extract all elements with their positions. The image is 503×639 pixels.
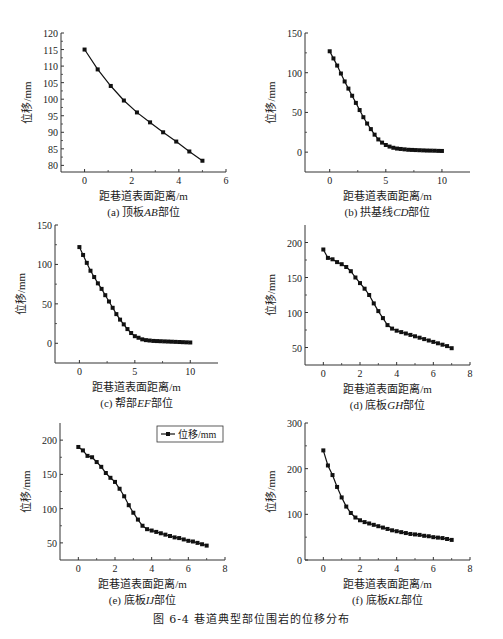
data-point-marker xyxy=(436,536,440,540)
subplot-c: 0501001500510位移/mm距巷道表面距离/m(c) 帮部EF部位 xyxy=(14,220,218,410)
y-axis-label: 位移/mm xyxy=(20,81,33,124)
x-tick-label: 6 xyxy=(186,563,191,574)
data-point-marker xyxy=(339,72,343,76)
data-point-marker xyxy=(166,340,170,344)
y-axis-label: 位移/mm xyxy=(264,273,277,316)
y-tick-label: 200 xyxy=(287,464,302,475)
x-tick-label: 2 xyxy=(358,563,363,574)
data-point-marker xyxy=(358,281,362,285)
data-point-marker xyxy=(445,344,449,348)
data-point-marker xyxy=(177,340,181,344)
data-point-marker xyxy=(118,487,122,491)
data-point-marker xyxy=(340,495,344,499)
data-point-marker xyxy=(391,146,395,150)
data-point-marker xyxy=(170,340,174,344)
data-point-marker xyxy=(344,265,348,269)
y-tick-label: 150 xyxy=(42,469,57,480)
subplot-caption: (a) 顶板AB部位 xyxy=(107,205,179,219)
data-point-marker xyxy=(335,485,339,489)
x-axis-label: 距巷道表面距离/m xyxy=(343,577,432,590)
x-tick-label: 6 xyxy=(224,175,229,186)
data-point-marker xyxy=(350,94,354,98)
x-tick-label: 4 xyxy=(176,175,181,186)
data-point-marker xyxy=(144,338,148,342)
data-point-marker xyxy=(85,261,89,265)
series-line xyxy=(323,450,451,540)
data-point-marker xyxy=(321,248,325,252)
data-point-marker xyxy=(363,520,367,524)
data-point-marker xyxy=(109,84,113,88)
data-point-marker xyxy=(344,505,348,509)
data-point-marker xyxy=(346,87,350,91)
data-point-marker xyxy=(159,531,163,535)
x-tick-label: 4 xyxy=(394,563,399,574)
x-tick-label: 5 xyxy=(132,366,137,377)
y-axis-label: 位移/mm xyxy=(14,272,27,315)
data-point-marker xyxy=(358,518,362,522)
data-point-marker xyxy=(440,149,444,153)
data-point-marker xyxy=(148,120,152,124)
data-point-marker xyxy=(406,148,410,152)
data-point-marker xyxy=(422,534,426,538)
data-point-marker xyxy=(81,253,85,257)
data-point-marker xyxy=(83,48,87,52)
data-point-marker xyxy=(427,534,431,538)
data-point-marker xyxy=(381,316,385,320)
x-tick-label: 6 xyxy=(431,563,436,574)
y-tick-label: 100 xyxy=(287,308,302,319)
data-point-marker xyxy=(321,448,325,452)
data-point-marker xyxy=(114,312,118,316)
x-axis-label: 距巷道表面距离/m xyxy=(343,382,432,395)
data-point-marker xyxy=(431,340,435,344)
data-point-marker xyxy=(376,524,380,528)
y-tick-label: 50 xyxy=(42,299,52,310)
subplot-caption: (d) 底板GH部位 xyxy=(350,398,425,412)
y-tick-label: 90 xyxy=(48,127,58,138)
data-point-marker xyxy=(104,471,108,475)
data-point-marker xyxy=(88,269,92,273)
data-point-marker xyxy=(159,339,163,343)
x-tick-label: 0 xyxy=(321,368,326,379)
data-point-marker xyxy=(450,538,454,542)
data-point-marker xyxy=(133,334,137,338)
data-point-marker xyxy=(122,494,126,498)
data-point-marker xyxy=(410,148,414,152)
y-tick-label: 105 xyxy=(43,78,58,89)
data-point-marker xyxy=(372,523,376,527)
y-axis-label: 位移/mm xyxy=(264,470,277,513)
data-point-marker xyxy=(354,101,358,105)
data-point-marker xyxy=(441,343,445,347)
data-point-marker xyxy=(99,465,103,469)
subplot-caption: (f) 底板KL部位 xyxy=(352,593,423,607)
x-axis-label: 距巷道表面距离/m xyxy=(99,189,188,202)
data-point-marker xyxy=(187,149,191,153)
data-point-marker xyxy=(425,149,429,153)
subplot-d: 5010015020002468位移/mm距巷道表面距离/m(d) 底板GH部位 xyxy=(264,225,473,412)
data-point-marker xyxy=(122,99,126,103)
data-point-marker xyxy=(96,67,100,71)
data-point-marker xyxy=(372,301,376,305)
data-point-marker xyxy=(376,309,380,313)
subplot-e: 5010015020002468位移/mm距巷道表面距离/m(e) 底板IJ部位… xyxy=(19,423,228,607)
x-tick-label: 8 xyxy=(223,563,228,574)
data-point-marker xyxy=(384,143,388,147)
subplot-caption: (c) 帮部EF部位 xyxy=(100,396,172,410)
data-point-marker xyxy=(111,306,115,310)
data-point-marker xyxy=(92,275,96,279)
y-tick-label: 100 xyxy=(42,504,57,515)
data-point-marker xyxy=(408,333,412,337)
figure-caption: 图 6-4 巷道典型部位围岩的位移分布 xyxy=(0,610,503,626)
data-point-marker xyxy=(145,527,149,531)
x-tick-label: 0 xyxy=(321,563,326,574)
data-point-marker xyxy=(129,331,133,335)
data-point-marker xyxy=(417,148,421,152)
data-point-marker xyxy=(127,503,131,507)
data-point-marker xyxy=(422,337,426,341)
data-point-marker xyxy=(373,133,377,137)
data-point-marker xyxy=(413,532,417,536)
series-line xyxy=(330,51,442,151)
x-tick-label: 4 xyxy=(394,368,399,379)
y-axis-label: 位移/mm xyxy=(19,470,32,513)
data-point-marker xyxy=(326,463,330,467)
data-point-marker xyxy=(155,339,159,343)
